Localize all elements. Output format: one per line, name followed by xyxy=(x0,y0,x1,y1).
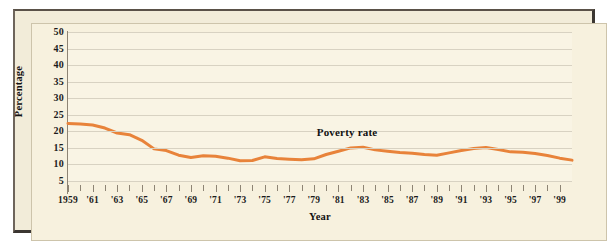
x-tick-label: '85 xyxy=(381,195,394,205)
y-tick-label: 45 xyxy=(16,43,64,54)
y-tick-label: 25 xyxy=(16,109,64,120)
plot-area xyxy=(68,32,572,181)
x-tick-label: '73 xyxy=(234,195,247,205)
x-tick-1967 xyxy=(166,185,167,192)
x-tick-label: '83 xyxy=(357,195,370,205)
x-tick-minor xyxy=(351,185,352,191)
x-tick-1965 xyxy=(142,185,143,192)
x-tick-1985 xyxy=(388,185,389,192)
x-tick-1977 xyxy=(289,185,290,192)
x-tick-label: '65 xyxy=(135,195,148,205)
x-tick-1993 xyxy=(486,185,487,192)
x-axis-title: Year xyxy=(68,211,572,222)
x-tick-minor xyxy=(277,185,278,191)
x-tick-label: '89 xyxy=(430,195,443,205)
x-tick-1971 xyxy=(216,185,217,192)
x-tick-1961 xyxy=(93,185,94,192)
gridline-y-45 xyxy=(68,49,572,50)
y-tick-label: 50 xyxy=(16,26,64,37)
x-tick-label: 1959 xyxy=(58,195,78,205)
x-tick-1969 xyxy=(191,185,192,192)
x-tick-label: '91 xyxy=(455,195,468,205)
x-tick-minor xyxy=(228,185,229,191)
x-tick-minor xyxy=(498,185,499,191)
gridline-y-30 xyxy=(68,98,572,99)
gridline-y-25 xyxy=(68,115,572,116)
x-tick-1999 xyxy=(560,185,561,192)
y-tick-label: 20 xyxy=(16,125,64,136)
x-tick-minor xyxy=(523,185,524,191)
x-tick-label: '69 xyxy=(185,195,198,205)
y-tick-label: 10 xyxy=(16,158,64,169)
x-tick-1959 xyxy=(68,185,69,192)
x-tick-label: '95 xyxy=(504,195,517,205)
x-tick-label: '93 xyxy=(480,195,493,205)
x-tick-label: '97 xyxy=(529,195,542,205)
x-tick-1989 xyxy=(437,185,438,192)
gridline-y-40 xyxy=(68,65,572,66)
x-tick-1975 xyxy=(265,185,266,192)
x-tick-minor xyxy=(302,185,303,191)
y-tick-label: 40 xyxy=(16,59,64,70)
x-tick-label: '79 xyxy=(307,195,320,205)
x-tick-minor xyxy=(474,185,475,191)
x-tick-1981 xyxy=(338,185,339,192)
y-tick-label: 15 xyxy=(16,142,64,153)
x-tick-label: '63 xyxy=(111,195,124,205)
x-tick-1973 xyxy=(240,185,241,192)
x-tick-1997 xyxy=(535,185,536,192)
x-tick-label: '75 xyxy=(258,195,271,205)
x-tick-minor xyxy=(375,185,376,191)
x-tick-label: '71 xyxy=(209,195,222,205)
y-tick-label: 5 xyxy=(16,175,64,186)
gridline-y-5 xyxy=(68,181,572,182)
x-tick-minor xyxy=(154,185,155,191)
x-tick-label: '87 xyxy=(406,195,419,205)
figure-root: Percentage 5101520253035404550 1959'61'6… xyxy=(0,0,607,246)
x-tick-minor xyxy=(203,185,204,191)
x-tick-label: '99 xyxy=(553,195,566,205)
x-tick-1963 xyxy=(117,185,118,192)
gridline-y-10 xyxy=(68,164,572,165)
x-tick-minor xyxy=(129,185,130,191)
series-annotation-poverty-rate: Poverty rate xyxy=(317,126,378,138)
series-poverty-rate xyxy=(68,32,572,181)
x-tick-minor xyxy=(252,185,253,191)
x-tick-minor xyxy=(547,185,548,191)
y-tick-label: 35 xyxy=(16,76,64,87)
x-axis-ticks xyxy=(68,185,572,193)
x-tick-minor xyxy=(449,185,450,191)
y-tick-label: 30 xyxy=(16,92,64,103)
x-tick-minor xyxy=(80,185,81,191)
x-tick-1991 xyxy=(461,185,462,192)
x-tick-1987 xyxy=(412,185,413,192)
x-tick-minor xyxy=(105,185,106,191)
x-axis-tick-labels: 1959'61'63'65'67'69'71'73'75'77'79'81'83… xyxy=(0,195,607,211)
gridline-y-15 xyxy=(68,148,572,149)
x-tick-label: '77 xyxy=(283,195,296,205)
x-tick-label: '61 xyxy=(86,195,99,205)
x-tick-minor xyxy=(424,185,425,191)
gridline-y-50 xyxy=(68,32,572,33)
x-tick-1983 xyxy=(363,185,364,192)
x-tick-label: '81 xyxy=(332,195,345,205)
x-tick-1979 xyxy=(314,185,315,192)
x-tick-label: '67 xyxy=(160,195,173,205)
gridline-y-35 xyxy=(68,82,572,83)
x-tick-minor xyxy=(179,185,180,191)
x-tick-1995 xyxy=(511,185,512,192)
x-tick-minor xyxy=(400,185,401,191)
x-tick-minor xyxy=(326,185,327,191)
